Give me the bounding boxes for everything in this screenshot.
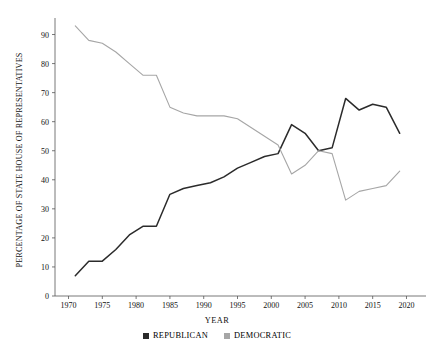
x-tick-label: 1980 bbox=[128, 301, 144, 310]
legend-label: REPUBLICAN bbox=[153, 331, 208, 340]
x-tick-label: 2020 bbox=[398, 301, 414, 310]
y-tick-label: 10 bbox=[17, 262, 49, 271]
y-tick-label: 90 bbox=[17, 30, 49, 39]
y-tick-label: 80 bbox=[17, 59, 49, 68]
x-tick-label: 1990 bbox=[196, 301, 212, 310]
x-tick-label: 2000 bbox=[263, 301, 279, 310]
x-tick-label: 1970 bbox=[61, 301, 77, 310]
y-tick-label: 40 bbox=[17, 175, 49, 184]
chart-legend: REPUBLICANDEMOCRATIC bbox=[0, 331, 434, 340]
legend-swatch-icon bbox=[143, 333, 149, 339]
x-tick-label: 1975 bbox=[94, 301, 110, 310]
y-tick-label: 60 bbox=[17, 117, 49, 126]
x-tick-label: 2005 bbox=[297, 301, 313, 310]
x-tick-label: 1995 bbox=[230, 301, 246, 310]
legend-swatch-icon bbox=[224, 333, 230, 339]
plot-area bbox=[0, 0, 434, 350]
legend-label: DEMOCRATIC bbox=[234, 331, 291, 340]
y-tick-label: 70 bbox=[17, 88, 49, 97]
series-line-republican bbox=[75, 98, 399, 275]
y-tick-label: 0 bbox=[17, 292, 49, 301]
chart-figure: PERCENTAGE OF STATE HOUSE OF REPRESENTAT… bbox=[0, 0, 434, 350]
series-line-democratic bbox=[75, 26, 399, 200]
y-tick-label: 20 bbox=[17, 233, 49, 242]
legend-entry-democratic: DEMOCRATIC bbox=[224, 331, 291, 340]
y-tick-label: 30 bbox=[17, 204, 49, 213]
x-tick-label: 1985 bbox=[162, 301, 178, 310]
y-tick-label: 50 bbox=[17, 146, 49, 155]
series-lines bbox=[75, 26, 399, 276]
x-tick-label: 2010 bbox=[331, 301, 347, 310]
x-tick-label: 2015 bbox=[365, 301, 381, 310]
legend-entry-republican: REPUBLICAN bbox=[143, 331, 208, 340]
x-axis-title: YEAR bbox=[0, 316, 434, 325]
